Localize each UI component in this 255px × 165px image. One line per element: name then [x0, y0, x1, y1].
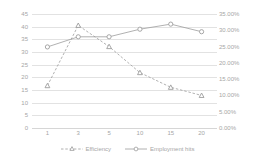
- data-point-marker: [107, 44, 112, 48]
- data-point-marker: [76, 35, 80, 39]
- y-left-tick-label: 20: [21, 74, 28, 81]
- data-point-marker: [45, 83, 50, 87]
- y-axis-left: 051015202530354045: [0, 14, 28, 128]
- y-left-tick-label: 0: [25, 125, 28, 132]
- y-right-tick-label: 5.00%: [219, 108, 236, 115]
- y-right-tick-label: 25.00%: [219, 43, 239, 50]
- series-line: [47, 24, 201, 47]
- y-left-tick-label: 45: [21, 11, 28, 18]
- y-axis-right: 0.00%5.00%10.00%15.00%20.00%25.00%30.00%…: [219, 14, 253, 128]
- y-right-tick-label: 0.00%: [219, 125, 236, 132]
- solid-line-circle-marker-icon: [125, 145, 147, 153]
- y-left-tick-label: 5: [25, 112, 28, 119]
- series-line: [47, 25, 201, 95]
- y-right-tick-label: 30.00%: [219, 27, 239, 34]
- x-tick-label: 1: [46, 130, 49, 136]
- x-tick-label: 3: [77, 130, 80, 136]
- data-point-marker: [199, 93, 204, 97]
- y-right-tick-label: 10.00%: [219, 92, 239, 99]
- x-axis: 135101520: [32, 130, 217, 142]
- data-point-marker: [107, 35, 111, 39]
- y-left-tick-label: 40: [21, 23, 28, 30]
- y-right-tick-label: 35.00%: [219, 11, 239, 18]
- data-point-marker: [76, 23, 81, 27]
- x-tick-label: 15: [167, 130, 174, 136]
- data-point-marker: [168, 85, 173, 89]
- data-point-marker: [138, 27, 142, 31]
- y-left-tick-label: 30: [21, 49, 28, 56]
- x-tick-label: 5: [107, 130, 110, 136]
- y-right-tick-label: 15.00%: [219, 76, 239, 83]
- legend-item-efficiency[interactable]: Efficiency: [61, 145, 112, 153]
- data-point-marker: [45, 45, 49, 49]
- data-point-marker: [199, 30, 203, 34]
- y-left-tick-label: 25: [21, 61, 28, 68]
- series-layer: [32, 14, 217, 128]
- dashed-line-triangle-marker-icon: [61, 145, 83, 153]
- y-left-tick-label: 10: [21, 99, 28, 106]
- y-right-tick-label: 20.00%: [219, 59, 239, 66]
- gridline: [32, 128, 217, 129]
- chart-legend: Efficiency Employment hits: [0, 145, 255, 153]
- data-point-marker: [169, 22, 173, 26]
- plot-area: [32, 14, 217, 128]
- y-left-tick-label: 35: [21, 36, 28, 43]
- legend-label-employment-hits: Employment hits: [150, 145, 194, 153]
- x-tick-label: 10: [137, 130, 144, 136]
- y-left-tick-label: 15: [21, 87, 28, 94]
- chart-container: 051015202530354045 0.00%5.00%10.00%15.00…: [0, 0, 255, 165]
- x-tick-label: 20: [198, 130, 205, 136]
- legend-item-employment-hits[interactable]: Employment hits: [125, 145, 194, 153]
- legend-label-efficiency: Efficiency: [86, 145, 112, 153]
